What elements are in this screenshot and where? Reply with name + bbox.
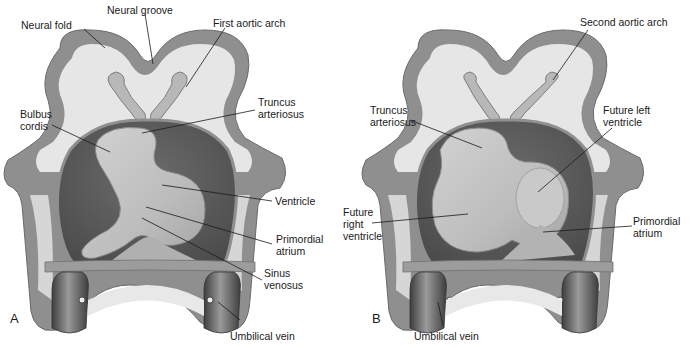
label-sinus-venosus-1: Sinus	[264, 267, 290, 279]
umbilical-vein-right-b	[562, 272, 598, 333]
embryonic-heart-figure: Neural fold Neural groove First aortic a…	[0, 0, 690, 348]
label-umbilical-vein-b: Umbilical vein	[414, 330, 479, 342]
label-bulbus-cordis-2: cordis	[20, 120, 48, 132]
panel-letter-b: B	[372, 311, 381, 326]
label-future-right-ventricle-3: ventricle	[343, 230, 382, 242]
label-future-left-ventricle-2: ventricle	[603, 116, 642, 128]
panel-letter-a: A	[10, 311, 19, 326]
label-truncus-arteriosus-b-2: arteriosus	[370, 116, 416, 128]
label-future-right-ventricle-1: Future	[343, 206, 373, 218]
label-primordial-atrium-b-1: Primordial	[633, 215, 680, 227]
label-sinus-venosus-2: venosus	[264, 279, 303, 291]
label-neural-fold: Neural fold	[21, 19, 72, 31]
label-primordial-atrium-a-2: atrium	[276, 245, 305, 257]
label-truncus-arteriosus-a-2: arteriosus	[258, 108, 304, 120]
label-truncus-arteriosus-b-1: Truncus	[370, 104, 408, 116]
label-primordial-atrium-b-2: atrium	[633, 227, 662, 239]
label-second-aortic-arch: Second aortic arch	[580, 16, 668, 28]
label-future-right-ventricle-2: right	[343, 218, 363, 230]
label-primordial-atrium-a-1: Primordial	[276, 233, 323, 245]
panel-b-drawing	[362, 30, 644, 333]
illustration	[0, 0, 690, 348]
label-first-aortic-arch: First aortic arch	[213, 17, 285, 29]
label-bulbus-cordis-1: Bulbus	[20, 108, 52, 120]
umbilical-vein-left-b	[410, 272, 446, 333]
label-truncus-arteriosus-a-1: Truncus	[258, 96, 296, 108]
label-future-left-ventricle-1: Future left	[603, 104, 650, 116]
panel-a-drawing	[4, 30, 286, 333]
label-umbilical-vein-a: Umbilical vein	[230, 330, 295, 342]
label-neural-groove: Neural groove	[107, 4, 173, 16]
label-ventricle: Ventricle	[275, 195, 315, 207]
